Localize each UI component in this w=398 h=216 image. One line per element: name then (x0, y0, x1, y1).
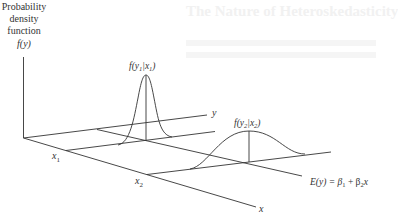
x2-label: x2 (134, 175, 143, 189)
y-axis (24, 115, 208, 138)
axis-label-line: Probability (2, 1, 46, 12)
density-curve-1 (118, 75, 172, 145)
curve2-label: f(y2|x2) (234, 118, 261, 129)
regression-label: E(y) = β1 + β2x (309, 177, 369, 188)
x-axis-label: x (258, 203, 264, 214)
axis-label-line: density (10, 13, 39, 24)
x-axis (24, 138, 257, 207)
x2-line (147, 152, 331, 175)
curve1-label: f(y1|x1) (129, 61, 156, 72)
axis-label-fy: f(y) (17, 38, 32, 50)
axis-label-line: function (7, 25, 40, 36)
x1-label: x1 (51, 150, 60, 164)
x1-line (66, 132, 215, 151)
y-axis-label: y (211, 107, 217, 118)
